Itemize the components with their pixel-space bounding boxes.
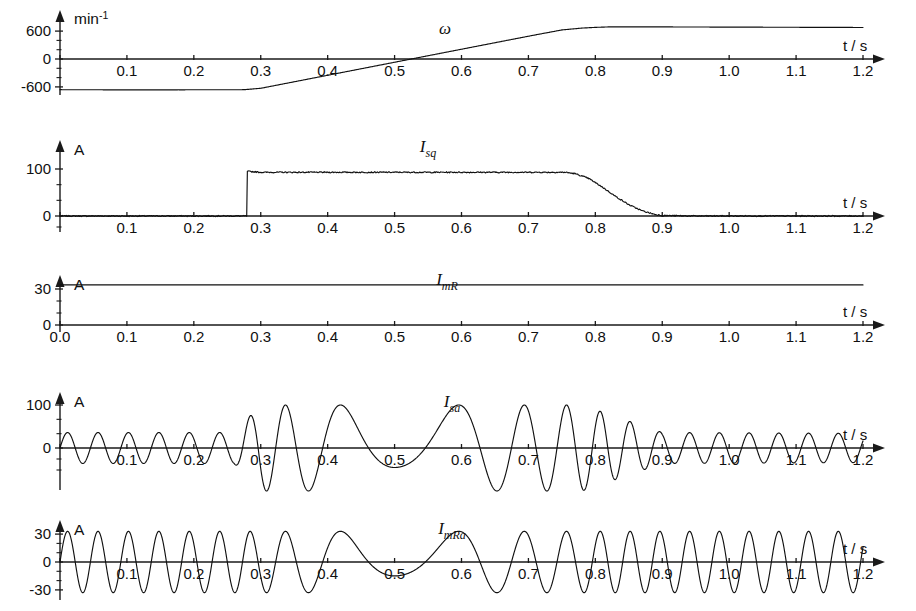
x-tick-label: 0.6	[451, 451, 472, 468]
x-tick-label: 0.2	[183, 565, 204, 582]
x-tick-label: 0.2	[183, 219, 204, 236]
x-tick-label: 0.5	[384, 62, 405, 79]
y-tick-label: 30	[34, 525, 51, 542]
x-tick-label: 1.0	[719, 328, 740, 345]
x-tick-label: 0.3	[250, 62, 271, 79]
y-axis-arrow	[56, 520, 65, 532]
y-tick-label: -30	[29, 581, 51, 598]
y-axis-unit-label: A	[74, 393, 85, 410]
x-axis-title: t / s	[843, 303, 867, 320]
x-axis-title: t / s	[843, 37, 867, 54]
y-tick-label: 0	[43, 50, 51, 67]
panel-magnetising-phase-current: 0.10.20.30.40.50.60.70.80.91.01.11.2-300…	[29, 519, 885, 600]
x-tick-label: 0.7	[518, 565, 539, 582]
y-axis-unit-label: A	[74, 521, 85, 538]
x-tick-label: 0.9	[652, 219, 673, 236]
y-tick-label: 100	[26, 160, 51, 177]
x-tick-label: 0.6	[451, 219, 472, 236]
waveform-figure: 0.10.20.30.40.50.60.70.80.91.01.11.2-600…	[0, 0, 916, 611]
x-axis-arrow	[873, 444, 885, 453]
x-tick-label: 0.2	[183, 62, 204, 79]
x-tick-label: 0.9	[652, 62, 673, 79]
curve-label-magnetising-current: ImR	[435, 270, 458, 293]
x-tick-label: 0.6	[451, 62, 472, 79]
x-tick-label: 0.2	[183, 328, 204, 345]
x-tick-label: 0.9	[652, 328, 673, 345]
x-tick-label: 0.4	[317, 219, 338, 236]
y-tick-label: 0	[43, 439, 51, 456]
panel-stator-phase-current: 0.10.20.30.40.50.60.70.80.91.01.11.20100…	[26, 392, 885, 491]
x-tick-label: 0.8	[585, 328, 606, 345]
y-tick-label: 30	[34, 280, 51, 297]
panel-torque-current: 0.10.20.30.40.50.60.70.80.91.01.11.20100…	[26, 137, 885, 236]
x-tick-label: 1.2	[853, 219, 874, 236]
x-tick-label: 0.8	[585, 451, 606, 468]
x-tick-label: 0.8	[585, 219, 606, 236]
x-tick-label: 0.3	[250, 219, 271, 236]
x-tick-label: 1.1	[786, 219, 807, 236]
x-tick-label: 1.0	[719, 451, 740, 468]
x-tick-label: 1.2	[853, 62, 874, 79]
x-tick-label: 0.8	[585, 62, 606, 79]
x-tick-label: 0.5	[384, 565, 405, 582]
curve-label-speed: ω	[439, 19, 451, 38]
x-axis-title: t / s	[843, 540, 867, 557]
x-tick-label: 0.5	[384, 328, 405, 345]
curve-label-magnetising-phase-current: ImRa	[437, 519, 466, 542]
x-tick-label: 0.5	[384, 451, 405, 468]
x-tick-label: 0.7	[518, 328, 539, 345]
x-tick-label: 0.1	[116, 328, 137, 345]
y-tick-label: 100	[26, 396, 51, 413]
x-axis-arrow	[873, 212, 885, 221]
y-axis-unit-label: min-1	[74, 9, 108, 27]
x-tick-label: 0.8	[585, 565, 606, 582]
x-tick-label: 0.7	[518, 62, 539, 79]
x-tick-label: 1.1	[786, 328, 807, 345]
y-axis-arrow	[56, 10, 65, 22]
curve-label-stator-phase-current: Isa	[443, 392, 460, 415]
x-tick-label: 0.4	[317, 328, 338, 345]
x-tick-label: 0.5	[384, 219, 405, 236]
y-tick-label: 0	[43, 553, 51, 570]
x-tick-label: 1.0	[719, 219, 740, 236]
panel-speed: 0.10.20.30.40.50.60.70.80.91.01.11.2-600…	[21, 9, 885, 95]
x-tick-label: 1.0	[719, 62, 740, 79]
x-tick-label: 0.1	[116, 219, 137, 236]
y-tick-label: -600	[21, 78, 51, 95]
x-axis-arrow	[873, 321, 885, 330]
x-axis-title: t / s	[843, 426, 867, 443]
figure-canvas: 0.10.20.30.40.50.60.70.80.91.01.11.2-600…	[0, 0, 916, 611]
panel-magnetising-current: 0.00.10.20.30.40.50.60.70.80.91.01.11.20…	[34, 270, 885, 345]
x-tick-label: 1.2	[853, 328, 874, 345]
x-tick-label: 0.6	[451, 565, 472, 582]
y-axis-arrow	[56, 392, 65, 404]
x-tick-label: 1.2	[853, 565, 874, 582]
x-tick-label: 0.0	[50, 328, 71, 345]
curve-label-torque-current: Isq	[419, 137, 436, 160]
x-tick-label: 0.7	[518, 451, 539, 468]
x-tick-label: 1.1	[786, 451, 807, 468]
x-axis-arrow	[873, 55, 885, 64]
x-tick-label: 1.1	[786, 62, 807, 79]
x-tick-label: 0.1	[116, 62, 137, 79]
x-tick-label: 0.6	[451, 328, 472, 345]
x-tick-label: 0.7	[518, 219, 539, 236]
x-axis-title: t / s	[843, 194, 867, 211]
x-tick-label: 0.3	[250, 328, 271, 345]
trace-torque-current	[60, 171, 863, 217]
x-axis-arrow	[873, 558, 885, 567]
y-axis-unit-label: A	[74, 141, 85, 158]
y-tick-label: 0	[43, 316, 51, 333]
y-axis-arrow	[56, 140, 65, 152]
y-tick-label: 0	[43, 207, 51, 224]
y-tick-label: 600	[26, 22, 51, 39]
